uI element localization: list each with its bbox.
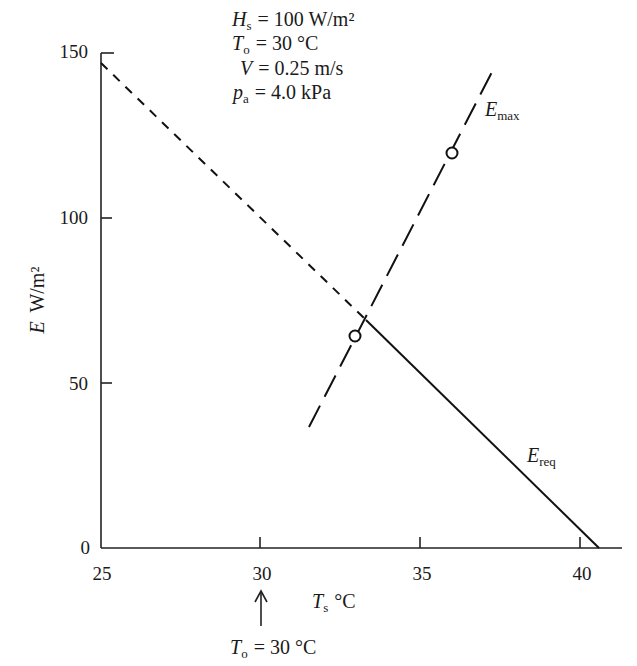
condition-pa: pa= 4.0 kPa <box>231 81 331 106</box>
x-axis-label: Ts°C <box>312 590 356 615</box>
x-tick-40: 40 <box>573 563 592 584</box>
y-tick-0: 0 <box>81 537 91 558</box>
to-arrow-icon <box>255 591 267 626</box>
label-e-max: Emax <box>484 98 520 123</box>
label-e-req: Ereq <box>526 444 556 469</box>
svg-text:E W/m²: E W/m² <box>26 267 48 335</box>
y-tick-50: 50 <box>69 373 88 394</box>
conditions-block: Hs= 100 W/m² To= 30 °C V= 0.25 m/s pa= 4… <box>231 8 354 106</box>
x-tick-25: 25 <box>93 563 112 584</box>
y-axis-label: E W/m² <box>26 267 48 335</box>
y-tick-150: 150 <box>60 41 89 62</box>
series-e-max <box>309 70 493 427</box>
condition-To: To= 30 °C <box>232 32 318 57</box>
to-arrow-label: To= 30 °C <box>230 636 316 661</box>
y-tick-100: 100 <box>60 207 89 228</box>
marker-e-max-2 <box>447 148 458 159</box>
chart: 150 100 50 0 25 30 35 40 E W/m² Ts°C To=… <box>0 0 637 666</box>
x-tick-30: 30 <box>253 563 272 584</box>
series-e-req <box>101 63 599 548</box>
condition-Hs: Hs= 100 W/m² <box>231 8 354 33</box>
axes <box>101 53 622 548</box>
condition-V: V= 0.25 m/s <box>240 57 344 79</box>
y-tick-labels: 150 100 50 0 <box>60 41 91 558</box>
x-tick-35: 35 <box>413 563 432 584</box>
x-tick-labels: 25 30 35 40 <box>93 563 592 584</box>
marker-e-max-1 <box>350 331 361 342</box>
